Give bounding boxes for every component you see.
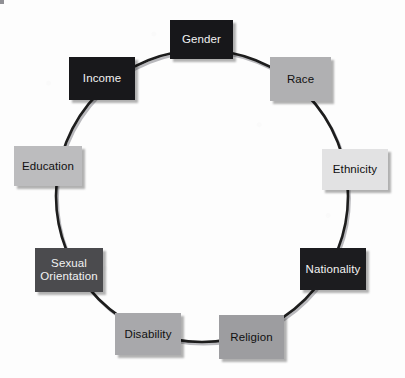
node-ethnicity[interactable]: Ethnicity [322, 149, 388, 190]
node-race[interactable]: Race [270, 57, 331, 101]
node-nationality[interactable]: Nationality [300, 248, 366, 290]
node-label-income: Income [83, 72, 121, 85]
node-label-religion: Religion [230, 331, 272, 344]
node-income[interactable]: Income [69, 57, 135, 100]
node-label-ethnicity: Ethnicity [333, 163, 377, 176]
node-label-sexual-orientation: Sexual Orientation [40, 257, 97, 283]
node-label-gender: Gender [182, 33, 221, 46]
node-label-nationality: Nationality [306, 263, 361, 276]
node-education[interactable]: Education [14, 146, 82, 186]
node-gender[interactable]: Gender [170, 20, 233, 59]
node-label-disability: Disability [124, 328, 171, 341]
node-disability[interactable]: Disability [115, 313, 181, 355]
node-sexual-orientation[interactable]: Sexual Orientation [35, 248, 103, 292]
node-label-race: Race [287, 73, 314, 86]
diagram-canvas: GenderRaceEthnicityNationalityReligionDi… [0, 0, 405, 378]
node-label-education: Education [22, 160, 74, 173]
node-religion[interactable]: Religion [219, 315, 284, 359]
